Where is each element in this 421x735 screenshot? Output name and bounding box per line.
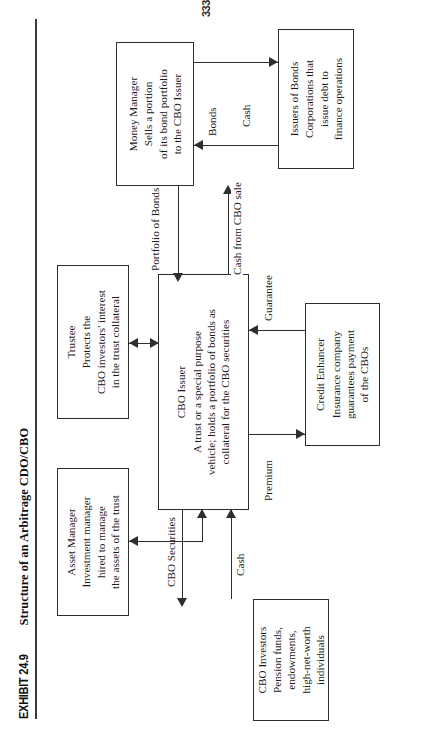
issuers-of-bonds-line-2: issue debt to	[317, 71, 331, 127]
edge-trustee-arrowhead-down	[150, 338, 159, 348]
edge-label-cbo-securities: CBO Securities	[165, 515, 177, 589]
node-credit-enhancer[interactable]: Credit Enhancer Insurance company guaran…	[305, 303, 380, 446]
exhibit-tag: EXHIBIT 24.9	[17, 654, 31, 719]
credit-enhancer-line-1: Insurance company	[329, 331, 343, 418]
edge-label-premium: Premium	[262, 458, 274, 503]
cbo-investors-title: CBO Investors	[255, 627, 269, 694]
cbo-investors-line-1: Pension funds,	[270, 627, 284, 693]
trustee-line-3: in the trust collateral	[108, 296, 122, 388]
cbo-investors-line-4: individuals	[313, 635, 327, 685]
edge-label-cash-issuers: Cash	[240, 103, 252, 129]
edge-portfolio-arrowhead	[173, 273, 183, 282]
money-manager-line-2: of its bond portfolio	[156, 69, 170, 159]
cbo-issuer-line-1: A trust or a special purpose	[190, 331, 204, 453]
trustee-line-2: CBO investors' interest	[94, 290, 108, 394]
node-issuers-of-bonds[interactable]: Issuers of Bonds Corporations that issue…	[278, 29, 354, 169]
issuers-of-bonds-title: Issuers of Bonds	[287, 62, 301, 137]
edge-label-portfolio-of-bonds: Portfolio of Bonds	[149, 186, 161, 273]
asset-manager-line-1: Investment manager	[79, 496, 93, 587]
node-cbo-investors[interactable]: CBO Investors Pension funds, endowments,…	[253, 599, 329, 721]
edge-cbo-securities-line	[182, 510, 183, 599]
edge-label-cash-investors: Cash	[234, 552, 246, 578]
cbo-issuer-title: CBO Issuer	[174, 366, 188, 419]
money-manager-line-3: to the CBO Issuer	[170, 74, 184, 154]
edge-portfolio-line	[178, 186, 179, 274]
edge-cash-investors-line	[231, 510, 232, 599]
node-money-manager[interactable]: Money Manager Sells a portion of its bon…	[116, 42, 194, 186]
credit-enhancer-title: Credit Enhancer	[313, 338, 327, 411]
asset-manager-title: Asset Manager	[64, 508, 78, 575]
edge-bonds-line	[194, 145, 278, 146]
exhibit-page: EXHIBIT 24.9 Structure of an Arbitrage C…	[0, 0, 421, 735]
edge-asset-manager-arrowhead-up	[129, 536, 138, 546]
trustee-title: Trustee	[64, 325, 78, 358]
edge-cash-cbo-sale-line	[228, 186, 229, 274]
edge-asset-manager-line	[129, 541, 203, 542]
exhibit-header: EXHIBIT 24.9 Structure of an Arbitrage C…	[14, 428, 32, 719]
edge-asset-manager-arrowhead-right	[197, 509, 207, 518]
issuers-of-bonds-line-1: Corporations that	[302, 60, 316, 138]
cbo-investors-line-3: high-net-worth	[299, 626, 313, 693]
edge-premium-arrowhead	[296, 429, 305, 439]
edge-cbo-securities-arrowhead	[177, 598, 187, 607]
money-manager-line-1: Sells a portion	[141, 82, 155, 147]
credit-enhancer-line-2: guarantees payment	[343, 330, 357, 419]
edge-cash-investors-arrowhead	[226, 509, 236, 518]
page-number: 333	[200, 0, 212, 17]
header-divider	[35, 19, 37, 719]
edge-cash-issuers-arrowhead	[269, 57, 278, 67]
edge-label-bonds: Bonds	[206, 105, 218, 138]
trustee-line-1: Protects the	[79, 316, 93, 369]
edge-bonds-arrowhead	[194, 140, 203, 150]
edge-trustee-arrowhead-up	[129, 338, 138, 348]
node-trustee[interactable]: Trustee Protects the CBO investors' inte…	[57, 265, 129, 419]
asset-manager-line-3: the assets of the trust	[108, 495, 122, 589]
edge-label-guarantee: Guarantee	[262, 273, 274, 323]
edge-guarantee-arrowhead	[249, 325, 258, 335]
node-asset-manager[interactable]: Asset Manager Investment manager hired t…	[57, 468, 129, 616]
issuers-of-bonds-line-3: finance operations	[331, 58, 345, 140]
credit-enhancer-line-3: of the CBOs	[357, 347, 371, 403]
node-cbo-issuer[interactable]: CBO Issuer A trust or a special purpose …	[158, 274, 249, 510]
exhibit-title: Structure of an Arbitrage CDO/CBO	[17, 428, 31, 626]
cbo-issuer-line-2: vehicle; holds a portfolio of bonds as	[204, 309, 218, 475]
asset-manager-line-2: hired to manage	[94, 506, 108, 578]
money-manager-title: Money Manager	[126, 77, 140, 151]
cbo-investors-line-2: endowments,	[284, 630, 298, 689]
edge-cash-issuers-line	[194, 62, 278, 63]
cbo-issuer-line-3: collateral for the CBO securities	[218, 320, 232, 465]
edge-label-cash-from-cbo-sale: Cash from CBO sale	[231, 180, 243, 277]
